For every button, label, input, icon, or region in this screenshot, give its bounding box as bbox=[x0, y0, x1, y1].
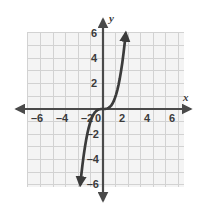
x-tick-pos4: 4 bbox=[144, 112, 151, 124]
y-axis-label: y bbox=[107, 12, 114, 24]
x-tick-neg2: –2 bbox=[81, 112, 93, 124]
y-tick-pos6: 6 bbox=[91, 27, 97, 39]
x-tick-pos2: 2 bbox=[119, 112, 125, 124]
origin-label: 0 bbox=[95, 112, 101, 124]
x-axis-label: x bbox=[182, 91, 189, 103]
cubic-function-graph: –6 –4 –2 0 2 4 6 6 4 2 –2 –4 –6 y x bbox=[0, 0, 205, 217]
x-tick-neg4: –4 bbox=[56, 112, 69, 124]
x-tick-pos6: 6 bbox=[169, 112, 175, 124]
y-tick-pos4: 4 bbox=[91, 52, 98, 64]
y-tick-neg2: –2 bbox=[87, 128, 99, 140]
y-tick-neg6: –6 bbox=[87, 178, 99, 190]
x-tick-neg6: –6 bbox=[31, 112, 43, 124]
coordinate-plane: –6 –4 –2 0 2 4 6 6 4 2 –2 –4 –6 y x bbox=[0, 0, 205, 217]
y-tick-neg4: –4 bbox=[87, 153, 100, 165]
y-tick-pos2: 2 bbox=[91, 77, 97, 89]
